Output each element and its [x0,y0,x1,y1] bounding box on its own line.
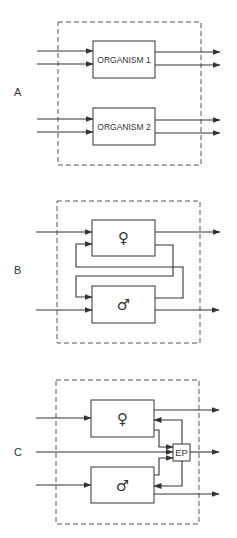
male-to-ep-arrow [154,458,173,475]
female-symbol-icon: ♀ [118,229,129,247]
panel-label-a: A [14,86,22,98]
panel-b: B ♀ ♂ [14,201,220,343]
ep-to-male-arrow [154,461,182,486]
organism-2-label: ORGANISM 2 [97,122,151,132]
male-symbol-icon: ♂ [116,477,129,495]
panel-label-c: C [14,446,22,458]
panel-a: A ORGANISM 1 ORGANISM 2 [14,22,220,165]
panel-c: C ♀ ♂ EP [14,380,219,524]
diagram-canvas: A ORGANISM 1 ORGANISM 2 B ♀ ♂ [0,0,237,538]
organism-1-label: ORGANISM 1 [97,55,151,65]
panel-label-b: B [14,264,21,276]
ep-label: EP [175,447,188,458]
male-symbol-icon: ♂ [117,296,130,314]
ep-to-female-arrow [154,420,182,444]
female-symbol-icon: ♀ [117,410,128,428]
female-to-ep-arrow [154,430,173,447]
